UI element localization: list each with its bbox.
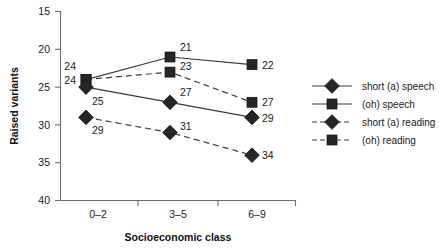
label-short-a-reading-2: 34 [262, 149, 274, 161]
legend-label-short-a-speech: short (a) speech [362, 81, 434, 92]
data-point-short-a-reading-2 [245, 148, 260, 163]
line-chart: 15 20 25 30 35 40 Raised variants 0–2 3–… [0, 0, 446, 249]
label-short-a-speech-2: 29 [262, 112, 274, 124]
y-tick-label-35: 35 [38, 156, 50, 168]
y-tick-label-30: 30 [38, 119, 50, 131]
label-oh-speech-0: 24 [64, 60, 76, 72]
chart-legend: short (a) speech (oh) speech short (a) r… [312, 79, 435, 146]
label-oh-speech-1: 21 [180, 41, 192, 53]
data-point-oh-reading-2 [247, 97, 257, 107]
x-tick-label-6-9: 6–9 [248, 208, 266, 220]
square-marker-icon [327, 135, 337, 145]
label-oh-reading-2: 27 [262, 96, 274, 108]
square-marker-icon [327, 99, 337, 109]
data-point-oh-reading-1 [165, 67, 175, 77]
label-oh-reading-1: 23 [180, 60, 192, 72]
label-short-a-speech-0: 25 [92, 95, 104, 107]
label-short-a-reading-1: 31 [180, 120, 192, 132]
y-tick-label-25: 25 [38, 81, 50, 93]
data-point-short-a-reading-0 [79, 110, 94, 125]
x-tick-label-0-2: 0–2 [89, 208, 107, 220]
legend-item-oh-speech[interactable]: (oh) speech [312, 99, 415, 110]
label-short-a-reading-0: 29 [92, 124, 104, 136]
data-point-short-a-speech-1 [163, 95, 178, 110]
data-point-oh-speech-1 [165, 52, 175, 62]
chart-figure: 15 20 25 30 35 40 Raised variants 0–2 3–… [0, 0, 446, 249]
diamond-marker-icon [325, 79, 340, 94]
data-point-short-a-speech-2 [245, 110, 260, 125]
label-oh-reading-0: 24 [64, 74, 76, 86]
legend-label-oh-reading: (oh) reading [362, 135, 416, 146]
data-point-oh-speech-2 [247, 60, 257, 70]
legend-label-short-a-reading: short (a) reading [362, 117, 435, 128]
y-tick-label-40: 40 [38, 194, 50, 206]
diamond-marker-icon [325, 115, 340, 130]
series-markers-short-a-reading [79, 110, 260, 163]
y-tick-label-20: 20 [38, 43, 50, 55]
y-tick-label-15: 15 [38, 5, 50, 17]
x-axis-title: Socioeconomic class [125, 231, 232, 243]
legend-item-short-a-speech[interactable]: short (a) speech [312, 79, 434, 94]
label-oh-speech-2: 22 [262, 59, 274, 71]
x-axis: 0–2 3–5 6–9 Socioeconomic class [61, 201, 297, 244]
legend-item-short-a-reading[interactable]: short (a) reading [312, 115, 435, 130]
data-point-short-a-reading-1 [163, 125, 178, 140]
x-tick-label-3-5: 3–5 [169, 208, 187, 220]
label-short-a-speech-1: 27 [180, 86, 192, 98]
legend-label-oh-speech: (oh) speech [362, 99, 415, 110]
series-markers-short-a-speech [79, 80, 260, 125]
y-axis: 15 20 25 30 35 40 Raised variants [8, 5, 61, 206]
legend-item-oh-reading[interactable]: (oh) reading [312, 135, 416, 146]
y-axis-title: Raised variants [8, 67, 20, 145]
